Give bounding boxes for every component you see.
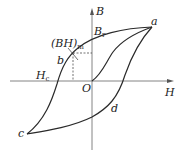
coercivity-label: Hc xyxy=(35,69,50,83)
point-b-label: b xyxy=(57,54,64,67)
origin-label: O xyxy=(82,82,91,95)
max-energy-product-label: (BH)m xyxy=(51,37,84,51)
h-axis-label: H xyxy=(164,86,175,99)
b-axis-label: B xyxy=(95,5,104,18)
h-axis-arrow-icon xyxy=(167,79,174,83)
b-axis-arrow-icon xyxy=(90,8,94,15)
point-d-label: d xyxy=(111,102,118,115)
point-a-label: a xyxy=(151,15,158,28)
point-c-label: c xyxy=(18,127,24,140)
remanence-label: Br xyxy=(93,25,106,39)
hysteresis-diagram: B H O a b c d Br Hc (BH)m xyxy=(0,0,179,156)
